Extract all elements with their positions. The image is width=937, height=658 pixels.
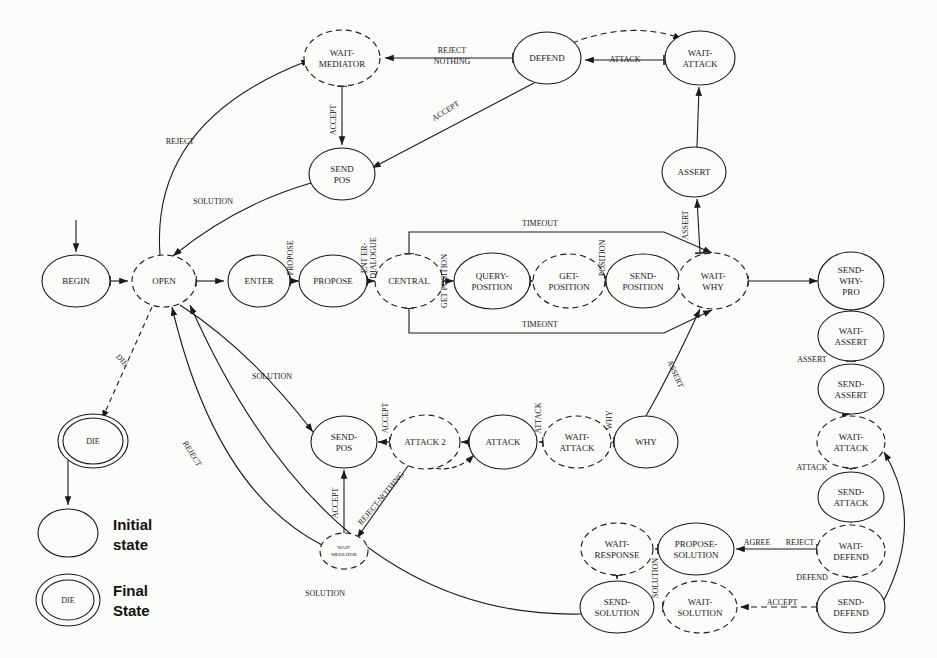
edge-label-layer: REJECTNOTHINGATTACKACCEPTACCEPTASSERTREJ…: [114, 46, 828, 607]
state-node-open[interactable]: OPEN: [132, 255, 196, 307]
state-label: ASSERT: [678, 167, 711, 177]
state-label: PROPOSE: [313, 276, 353, 286]
state-label: CENTRAL: [388, 276, 430, 286]
state-node-wait-defend[interactable]: WAIT-DEFEND: [817, 525, 885, 577]
state-node-send-pos-mid[interactable]: SEND-POS: [311, 416, 377, 468]
state-node-why[interactable]: WHY: [614, 416, 678, 468]
state-label: WAIT-: [605, 539, 630, 549]
state-node-defend[interactable]: DEFEND: [513, 32, 581, 84]
state-node-wait-mediator-low[interactable]: WAIT-MEDIATOR: [320, 533, 368, 569]
state-node-query-position[interactable]: QUERY-POSITION: [454, 253, 530, 309]
edge-label-l-enter-dialogue-2: DIALOGUE: [369, 237, 378, 278]
state-node-send-assert[interactable]: SEND-ASSERT: [818, 364, 884, 414]
state-label: SEND-: [604, 597, 631, 607]
state-label: SEND-: [838, 597, 865, 607]
state-node-wait-attack-r[interactable]: WAIT-ATTACK: [817, 416, 885, 468]
state-label: SOLUTION: [678, 608, 723, 618]
state-label: QUERY-: [476, 271, 509, 281]
state-label: POSITION: [471, 282, 513, 292]
edge-label-l-solution-bottom: SOLUTION: [305, 589, 345, 598]
state-label: WHY: [635, 437, 657, 447]
edge-label-l-accept-dash: ACCEPT: [767, 598, 798, 607]
state-node-propose-solution[interactable]: PROPOSE-SOLUTION: [658, 523, 734, 575]
state-label: ENTER: [245, 276, 274, 286]
state-label: WAIT-: [701, 271, 726, 281]
state-label: WAIT-: [839, 541, 864, 551]
edge-label-l-reject-top: REJECT: [166, 137, 195, 146]
state-node-wait-mediator-top[interactable]: WAIT-MEDIATOR: [304, 30, 380, 86]
state-label: POSITION: [548, 282, 590, 292]
state-label: WAIT-: [688, 48, 713, 58]
edge-timeout-bottom: [409, 308, 712, 333]
edge-label-l-enter-dialogue-1: ENT ER-: [360, 243, 369, 274]
state-label: ATTACK: [486, 437, 521, 447]
edge-waitwhy-assert: [697, 199, 700, 253]
edge-label-l-accept-mid: ACCEPT: [331, 488, 340, 519]
state-label: SEND: [330, 164, 354, 174]
state-label: WAIT-: [688, 597, 713, 607]
state-label: ATTACK: [683, 59, 718, 69]
state-label: SEND-: [838, 265, 865, 275]
state-node-die[interactable]: DIE: [58, 414, 128, 468]
edge-timeout-top: [409, 232, 712, 254]
edge-label-l-defend-right: DEFEND: [796, 573, 828, 582]
edge-label-l-reject-nothing: REJECT: [438, 46, 467, 55]
state-label: WAIT-: [330, 48, 355, 58]
state-node-send-solution[interactable]: SEND-SOLUTION: [580, 581, 654, 633]
edge-label-l-assert-vert: ASSERT: [681, 210, 690, 239]
state-node-wait-solution[interactable]: WAIT-SOLUTION: [663, 581, 737, 633]
state-label: WAIT-: [565, 432, 590, 442]
edge-label-l-assert-right: ASSERT: [797, 355, 826, 364]
state-label: PROPOSE-: [675, 539, 718, 549]
state-node-attack-2[interactable]: ATTACK 2: [390, 415, 460, 469]
edge-label-l-agree: AGREE: [744, 538, 771, 547]
state-node-begin[interactable]: BEGIN: [42, 255, 110, 307]
state-node-wait-response[interactable]: WAIT-RESPONSE: [581, 523, 653, 575]
state-label: SOLUTION: [674, 550, 719, 560]
edge-layer: [76, 30, 905, 614]
edge-label-l-attack-mid: ATTACK: [534, 402, 543, 433]
state-label: WHY: [702, 282, 724, 292]
edge-label-l-timeout-top: TIMEOUT: [522, 219, 558, 228]
state-label: GET-: [559, 271, 579, 281]
edge-label-l-reject-right: REJECT: [786, 538, 815, 547]
state-node-attack[interactable]: ATTACK: [469, 415, 537, 469]
state-node-assert[interactable]: ASSERT: [662, 147, 726, 197]
state-node-send-position[interactable]: SEND-POSITION: [606, 254, 680, 308]
legend-final-label-2: State: [113, 602, 150, 619]
state-label: POS: [336, 443, 353, 453]
state-node-wait-attack-top[interactable]: WAIT-ATTACK: [665, 31, 735, 85]
state-label: POS: [334, 175, 351, 185]
state-node-wait-assert[interactable]: WAIT-ASSERT: [818, 311, 884, 361]
edge-label-l-propose: PROPOSE: [286, 240, 295, 275]
state-label: DIE: [86, 437, 99, 446]
state-label: ASSERT: [835, 390, 868, 400]
state-node-send-why-pro[interactable]: SEND-WHY-PRO: [818, 252, 884, 310]
edge-label-l-accept-diag: ACCEPT: [430, 99, 461, 123]
state-node-central[interactable]: CENTRAL: [375, 254, 443, 308]
edge-label-l-reject-mid: REJECT: [181, 439, 204, 468]
state-node-propose[interactable]: PROPOSE: [299, 255, 367, 307]
state-label: SOLUTION: [595, 608, 640, 618]
state-node-send-attack[interactable]: SEND-ATTACK: [818, 472, 884, 522]
state-label: WHY-: [839, 276, 863, 286]
edge-label-l-die: DIE: [114, 352, 130, 368]
state-label: OPEN: [152, 276, 176, 286]
state-node-get-position[interactable]: GET-POSITION: [533, 254, 605, 308]
edge-label-l-reject-nothing: NOTHING: [434, 57, 471, 66]
edge-label-l-solution-mid: SOLUTION: [252, 372, 292, 381]
state-node-wait-attack-m[interactable]: WAIT-ATTACK: [543, 416, 611, 468]
edge-defend-sendpos: [372, 83, 534, 168]
edge-label-l-solution-top: SOLUTION: [193, 197, 233, 206]
state-label: SEND-: [331, 432, 358, 442]
state-node-send-pos-top[interactable]: SENDPOS: [309, 148, 375, 200]
state-label: ASSERT: [835, 337, 868, 347]
legend-initial-label-2: state: [113, 536, 148, 553]
state-outline: [320, 533, 368, 569]
state-node-wait-why[interactable]: WAIT-WHY: [678, 253, 748, 309]
state-node-send-defend[interactable]: SEND-DEFEND: [817, 581, 885, 633]
state-label: DEFEND: [833, 608, 869, 618]
state-label: SEND-: [838, 379, 865, 389]
state-label: ATTACK: [834, 498, 869, 508]
state-node-enter[interactable]: ENTER: [228, 255, 290, 307]
